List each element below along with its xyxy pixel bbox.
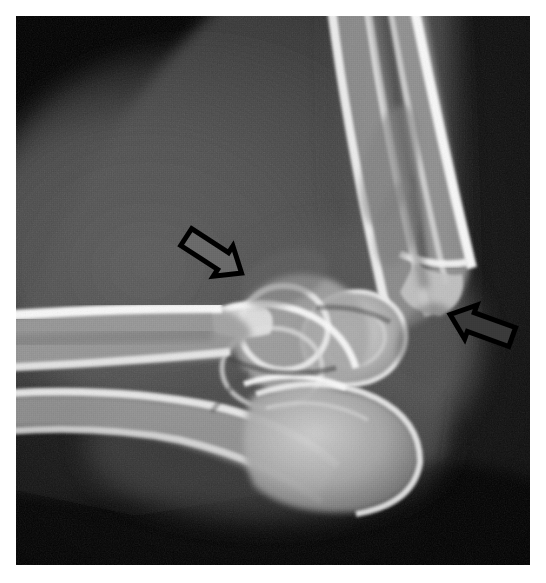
page-root: Anterior fat pad / sail sign Posterior f… [0,0,546,583]
radiograph-image: Anterior fat pad / sail sign Posterior f… [16,16,530,565]
caption-ghost-strip [18,570,530,581]
film-grain [16,16,530,565]
radiograph-frame: Anterior fat pad / sail sign Posterior f… [16,16,530,565]
